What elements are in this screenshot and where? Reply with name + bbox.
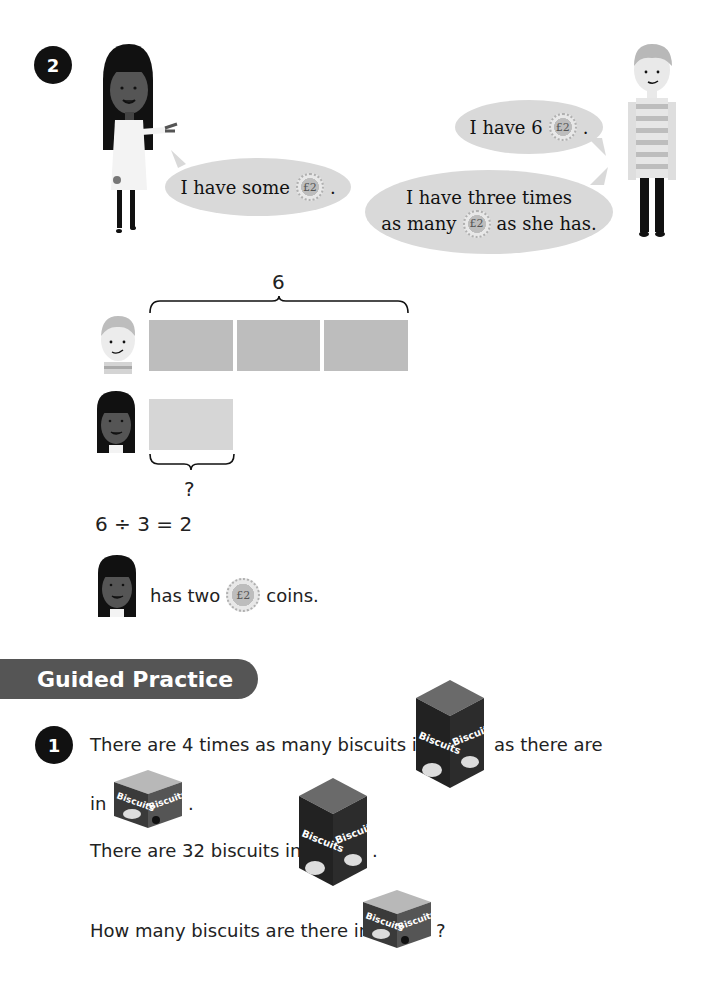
example-number: 2 <box>47 55 60 76</box>
boy-avatar <box>96 310 140 374</box>
boy-bar-unit-1 <box>149 320 233 371</box>
boy-bubble-1-text: I have 6 <box>470 117 543 138</box>
question-number: 1 <box>48 735 61 756</box>
girl-bubble-text: I have some <box>180 177 290 198</box>
boy-bar-unit-2 <box>237 320 320 371</box>
girl-bar-unit <box>149 399 233 450</box>
example-number-badge: 2 <box>34 46 72 84</box>
girl-speech-bubble: I have some £2 . <box>165 158 351 216</box>
tall-biscuit-box-icon: Biscuits Biscuits <box>297 778 369 886</box>
bubble-tail <box>588 138 608 158</box>
girl-avatar <box>95 389 137 453</box>
girl-avatar <box>96 553 138 617</box>
girl-bubble-punct: . <box>330 177 336 198</box>
conclusion-text-end: coins. <box>266 585 318 606</box>
question-line-4-start: How many biscuits are there in <box>90 920 370 941</box>
question-number-badge: 1 <box>35 726 73 764</box>
pound-coin-icon: £2 <box>463 210 491 238</box>
question-line-3-start: There are 32 biscuits in <box>90 840 301 861</box>
bubble-tail <box>590 165 612 187</box>
equation: 6 ÷ 3 = 2 <box>95 512 192 536</box>
question-line-1-end: as there are <box>494 734 603 755</box>
total-label: 6 <box>272 270 285 294</box>
boy-bubble-2-line2-end: as she has. <box>497 213 597 234</box>
boy-speech-bubble-2: I have three times as many £2 as she has… <box>365 170 613 254</box>
tall-biscuit-box-icon: Biscuits Biscuits <box>414 680 486 788</box>
conclusion-text-start: has two <box>150 585 220 606</box>
question-line-4-end: ? <box>436 920 446 941</box>
pound-coin-icon: £2 <box>296 173 324 201</box>
boy-bubble-1-punct: . <box>583 117 589 138</box>
small-biscuit-box-icon: Biscuits Biscuits <box>112 770 184 828</box>
boy-bar-unit-3 <box>324 320 408 371</box>
top-brace <box>148 295 410 315</box>
bubble-tail <box>168 150 188 170</box>
question-line-2-start: in <box>90 793 106 814</box>
pound-coin-icon: £2 <box>549 113 577 141</box>
section-title: Guided Practice <box>37 667 233 692</box>
boy-speech-bubble-1: I have 6 £2 . <box>455 100 603 154</box>
section-header-guided-practice: Guided Practice <box>0 659 258 699</box>
pound-coin-icon: £2 <box>226 578 260 612</box>
question-line-1-start: There are 4 times as many biscuits in <box>90 734 428 755</box>
question-line-3-end: . <box>372 840 378 861</box>
boy-bubble-2-line2-start: as many <box>381 213 456 234</box>
question-line-2-end: . <box>188 793 194 814</box>
unknown-label: ? <box>184 477 195 501</box>
bottom-brace <box>148 452 236 472</box>
small-biscuit-box-icon: Biscuits Biscuits <box>361 890 433 948</box>
boy-bubble-2-line1: I have three times <box>406 187 572 208</box>
girl-character-illustration <box>95 40 190 240</box>
boy-character-illustration <box>622 40 682 240</box>
conclusion-line: has two £2 coins. <box>150 578 319 612</box>
